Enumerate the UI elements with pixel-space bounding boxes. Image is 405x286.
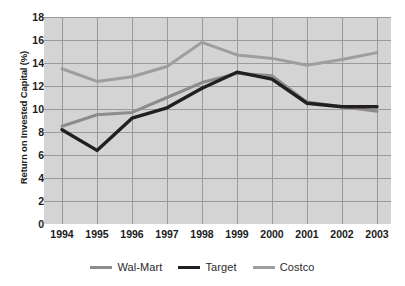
- legend-item-costco[interactable]: Costco: [253, 261, 315, 273]
- legend-item-wal-mart[interactable]: Wal-Mart: [90, 261, 162, 273]
- x-axis-tick-label: 2002: [330, 228, 353, 240]
- y-axis-tick-label: 12: [22, 80, 44, 92]
- y-axis-tick-label: 2: [22, 195, 44, 207]
- y-axis-tick-label: 6: [22, 149, 44, 161]
- x-axis-tick-label: 1996: [120, 228, 143, 240]
- legend-line-swatch: [178, 266, 200, 269]
- legend-label: Target: [205, 261, 236, 273]
- roic-line-chart: Return on Invested Capital (%) 024681012…: [0, 0, 405, 286]
- legend-label: Costco: [280, 261, 315, 273]
- y-axis-tick-label: 4: [22, 172, 44, 184]
- x-axis-tick-label: 2003: [365, 228, 388, 240]
- y-axis-tick-label: 16: [22, 34, 44, 46]
- y-axis-tick-label: 10: [22, 103, 44, 115]
- x-axis-tick-label: 1998: [190, 228, 213, 240]
- chart-legend: Wal-MartTargetCostco: [0, 256, 405, 278]
- x-axis-tick-labels: 1994199519961997199819992000200120022003: [0, 228, 405, 244]
- legend-line-swatch: [253, 266, 275, 269]
- x-axis-tick-label: 2001: [295, 228, 318, 240]
- series-lines: [44, 17, 391, 224]
- y-axis-tick-label: 14: [22, 57, 44, 69]
- x-axis-tick-label: 1994: [50, 228, 73, 240]
- plot-area: [44, 17, 391, 224]
- x-axis-tick-label: 1999: [225, 228, 248, 240]
- series-line-target: [62, 72, 377, 150]
- x-axis-tick-label: 1995: [85, 228, 108, 240]
- x-axis-tick-label: 2000: [260, 228, 283, 240]
- y-axis-tick-label: 18: [22, 11, 44, 23]
- legend-line-swatch: [90, 266, 112, 269]
- y-axis-tick-label: 8: [22, 126, 44, 138]
- legend-label: Wal-Mart: [117, 261, 162, 273]
- series-line-costco: [62, 42, 377, 81]
- legend-item-target[interactable]: Target: [178, 261, 236, 273]
- x-axis-tick-label: 1997: [155, 228, 178, 240]
